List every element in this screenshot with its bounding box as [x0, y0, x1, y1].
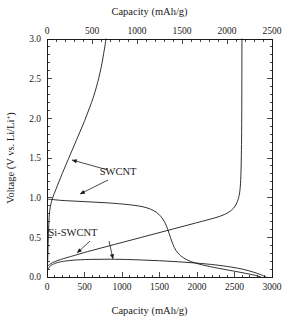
annotation-swcnt: SWCNT — [100, 166, 137, 177]
left-tick-1.5: 1.5 — [29, 153, 41, 163]
bottom-tick-1000: 1000 — [113, 282, 132, 292]
axis-ticks — [47, 39, 272, 277]
axis-tick-labels: 0500100015002000250030000500100015002000… — [29, 26, 282, 292]
data-curves — [47, 39, 266, 277]
top-tick-1500: 1500 — [173, 26, 192, 36]
left-axis-title-tail: ) — [5, 112, 17, 116]
curve-si-swcnt-discharge — [48, 259, 266, 277]
bottom-tick-2000: 2000 — [188, 282, 207, 292]
left-tick-3.0: 3.0 — [29, 34, 41, 44]
plot-frame — [47, 39, 272, 277]
voltage-capacity-chart: Capacity (mAh/g) Capacity (mAh/g) Voltag… — [0, 0, 299, 320]
bottom-tick-3000: 3000 — [263, 282, 282, 292]
svg-text:Voltage (V vs. Li/Li+): Voltage (V vs. Li/Li+) — [5, 112, 17, 204]
top-tick-0: 0 — [45, 26, 50, 36]
left-tick-2.0: 2.0 — [29, 114, 41, 124]
top-tick-1000: 1000 — [128, 26, 147, 36]
left-axis-title-main: Voltage (V vs. Li/Li — [5, 120, 17, 204]
top-axis-title: Capacity (mAh/g) — [111, 6, 188, 18]
annotation-si-swcnt: Si-SWCNT — [48, 227, 98, 238]
top-tick-2000: 2000 — [218, 26, 237, 36]
bottom-axis-title: Capacity (mAh/g) — [111, 305, 188, 317]
top-tick-500: 500 — [85, 26, 100, 36]
curve-swcnt-discharge — [49, 199, 261, 277]
bottom-tick-500: 500 — [77, 282, 92, 292]
bottom-tick-0: 0 — [45, 282, 50, 292]
left-tick-0.0: 0.0 — [29, 272, 41, 282]
left-tick-1.0: 1.0 — [29, 193, 41, 203]
annotation-arrow-icon — [110, 254, 114, 259]
left-tick-0.5: 0.5 — [29, 233, 41, 243]
left-axis-title: Voltage (V vs. Li/Li+) — [5, 112, 17, 204]
left-tick-2.5: 2.5 — [29, 74, 41, 84]
bottom-tick-1500: 1500 — [150, 282, 169, 292]
top-tick-2500: 2500 — [263, 26, 282, 36]
chart-figure: Capacity (mAh/g) Capacity (mAh/g) Voltag… — [0, 0, 299, 320]
bottom-tick-2500: 2500 — [225, 282, 244, 292]
